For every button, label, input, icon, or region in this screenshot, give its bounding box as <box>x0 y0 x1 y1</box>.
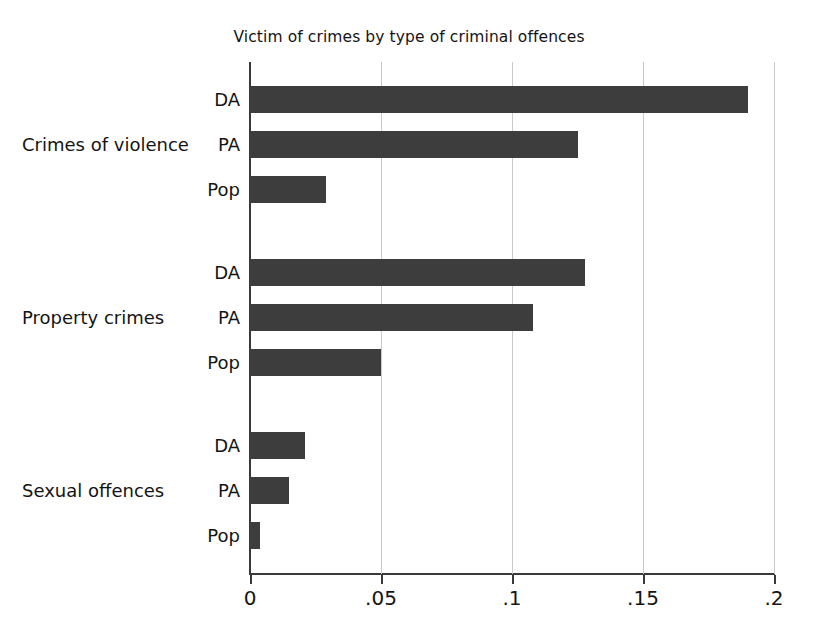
x-tick-mark <box>381 575 383 584</box>
x-tick-label: .1 <box>502 586 521 610</box>
x-tick-mark <box>643 575 645 584</box>
category-label: DA <box>214 89 240 110</box>
x-tick-mark <box>250 575 252 584</box>
chart-title: Victim of crimes by type of criminal off… <box>0 28 818 46</box>
category-label: DA <box>214 262 240 283</box>
group-label: Sexual offences <box>22 480 164 501</box>
bar <box>250 522 260 549</box>
bar <box>250 304 533 331</box>
category-label: PA <box>218 134 240 155</box>
x-tick-label: .05 <box>365 586 397 610</box>
x-tick-mark <box>512 575 514 584</box>
x-tick-label: .2 <box>764 586 783 610</box>
category-label: Pop <box>207 179 240 200</box>
x-tick-label: 0 <box>244 586 257 610</box>
x-tick-label: .15 <box>627 586 659 610</box>
gridline <box>643 62 644 574</box>
bar <box>250 176 326 203</box>
bar-chart: Victim of crimes by type of criminal off… <box>0 0 818 635</box>
category-label: PA <box>218 480 240 501</box>
bar <box>250 86 748 113</box>
bar <box>250 259 585 286</box>
category-label: PA <box>218 307 240 328</box>
group-label: Property crimes <box>22 307 164 328</box>
x-tick-mark <box>774 575 776 584</box>
gridline <box>774 62 775 574</box>
bar <box>250 131 578 158</box>
bar <box>250 477 289 504</box>
category-label: Pop <box>207 525 240 546</box>
category-label: DA <box>214 435 240 456</box>
bar <box>250 432 305 459</box>
group-label: Crimes of violence <box>22 134 189 155</box>
category-label: Pop <box>207 352 240 373</box>
bar <box>250 349 381 376</box>
